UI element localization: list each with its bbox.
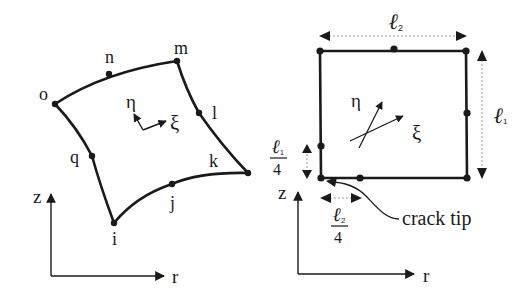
l2-symbol: ℓ [389, 9, 398, 34]
crack-tip-element: ℓ 2 ℓ 1 ℓ 1 4 ℓ 2 4 [270, 9, 508, 286]
dimension-left-l1-quarter: ℓ 1 4 [270, 136, 312, 179]
crack-tip-callout: crack tip [326, 177, 471, 230]
xi-label: ξ [170, 111, 179, 135]
midside-node-right [463, 109, 470, 116]
r-label: r [172, 266, 179, 287]
xi-axis-arrow [143, 121, 166, 130]
node-m [174, 58, 180, 64]
crack-tip-node [317, 174, 324, 181]
l1-subscript: 1 [503, 117, 508, 126]
dimension-right-l1: ℓ 1 [477, 50, 508, 179]
node-label-i: i [112, 229, 117, 249]
node-label-j: j [169, 193, 175, 213]
dimension-bottom-l2-quarter: ℓ 2 4 [320, 193, 362, 246]
node-labels: o n m l k j i q [39, 38, 218, 249]
node-l [196, 110, 202, 116]
eta-label: η [126, 91, 136, 112]
eta-axis-line [359, 102, 382, 148]
node-j [169, 181, 175, 187]
l2-quarter-subscript: 2 [341, 216, 346, 225]
l1-symbol: ℓ [494, 103, 503, 128]
corner-node-bottom-right [463, 174, 470, 181]
l2-quarter-denominator: 4 [334, 229, 342, 246]
node-dots-right [316, 45, 470, 181]
corner-node-top-left [316, 47, 323, 54]
l1-quarter-symbol: ℓ [272, 136, 280, 157]
l2-subscript: 2 [398, 23, 403, 33]
arrowhead-up-small [302, 144, 312, 153]
midside-node-top [390, 45, 397, 52]
arrowhead-down [477, 168, 487, 179]
r-label-right: r [423, 265, 430, 286]
node-label-l: l [212, 103, 217, 123]
local-axes-right: η ξ [350, 90, 421, 148]
arrowhead-left-small [320, 193, 331, 203]
element-boundary [55, 61, 248, 223]
l1-quarter-denominator: 4 [273, 161, 281, 178]
node-o [52, 101, 58, 107]
node-label-q: q [70, 147, 79, 167]
curved-element: o n m l k j i q η ξ z r [33, 38, 251, 287]
crack-tip-label: crack tip [402, 207, 471, 230]
quarter-point-node-bottom [356, 174, 363, 181]
arrowhead-up [477, 50, 487, 61]
arrowhead-down-small [302, 170, 312, 179]
local-axes-left: η ξ [126, 91, 179, 135]
quarter-point-node-left [317, 142, 324, 149]
arrowhead-right-small [351, 193, 362, 203]
eta-label-right: η [351, 90, 361, 111]
z-label: z [33, 186, 41, 207]
node-label-k: k [209, 151, 218, 171]
node-label-o: o [39, 84, 48, 104]
arrowhead-left [319, 31, 330, 41]
l2-quarter-symbol: ℓ [333, 204, 341, 225]
eta-axis-arrow [134, 114, 143, 130]
node-q [89, 153, 95, 159]
dimension-top-l2: ℓ 2 [319, 9, 467, 41]
node-label-n: n [105, 47, 114, 67]
node-label-m: m [174, 38, 188, 58]
xi-label-right: ξ [412, 121, 421, 145]
element-boundary-rect [320, 51, 467, 178]
l1-quarter-subscript: 1 [280, 149, 284, 156]
z-label-right: z [278, 182, 286, 203]
diagram-canvas: o n m l k j i q η ξ z r [0, 0, 524, 300]
node-n [106, 71, 112, 77]
arrowhead-right [456, 31, 467, 41]
corner-node-top-right [462, 47, 469, 54]
xi-axis-line [350, 116, 403, 141]
node-i [111, 220, 117, 226]
node-k [245, 170, 251, 176]
